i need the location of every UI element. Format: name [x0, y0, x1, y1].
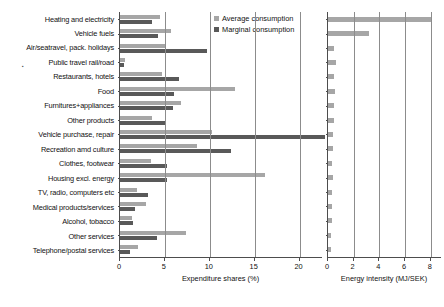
- category-tick: [118, 34, 120, 35]
- bar-row: [120, 142, 322, 156]
- bar-average: [328, 175, 333, 180]
- expenditure-x-axis: Expenditure shares (%) 05101520: [119, 258, 322, 284]
- category-tick: [326, 62, 328, 63]
- bar-average: [328, 247, 331, 252]
- bar-row: [120, 170, 322, 184]
- bar-row: [120, 41, 322, 55]
- category-tick: [118, 48, 120, 49]
- category-tick: [118, 106, 120, 107]
- x-tick: [327, 258, 328, 261]
- category-tick: [118, 120, 120, 121]
- bar-marginal: [120, 236, 157, 240]
- bar-average: [120, 159, 151, 163]
- category-tick: [326, 19, 328, 20]
- bar-row: [328, 113, 441, 127]
- gridline: [354, 12, 355, 257]
- category-tick: [326, 106, 328, 107]
- bar-average: [120, 44, 165, 48]
- bar-average: [328, 60, 336, 65]
- bar-average: [120, 72, 162, 76]
- bar-row: [328, 127, 441, 141]
- x-tick-label: 20: [294, 262, 302, 271]
- bar-average: [120, 15, 160, 19]
- category-tick: [118, 19, 120, 20]
- bar-row: [328, 214, 441, 228]
- bar-row: [120, 84, 322, 98]
- bar-row: [120, 127, 322, 141]
- category-label: Heating and electricity: [0, 12, 117, 26]
- bar-marginal: [120, 63, 124, 67]
- category-tick: [326, 149, 328, 150]
- x-tick-label: 10: [205, 262, 213, 271]
- bar-row: [328, 185, 441, 199]
- bar-marginal: [120, 149, 231, 153]
- category-tick: [118, 91, 120, 92]
- x-tick-label: 6: [402, 262, 406, 271]
- category-tick: [326, 178, 328, 179]
- bar-average: [120, 173, 265, 177]
- category-label: Food: [0, 84, 117, 98]
- bar-average: [120, 245, 138, 249]
- category-label: Restaurants, hotels: [0, 70, 117, 84]
- bar-average: [328, 46, 334, 51]
- bar-row: [328, 26, 441, 40]
- category-tick: [326, 48, 328, 49]
- category-label: Air/seatravel, pack. holidays: [0, 41, 117, 55]
- bar-average: [328, 204, 332, 209]
- gridline: [405, 12, 406, 257]
- expenditure-bar-rows: [120, 12, 322, 257]
- category-label: Furnitures+appliances: [0, 99, 117, 113]
- bar-row: [328, 243, 441, 257]
- bar-row: [328, 199, 441, 213]
- bar-row: [120, 55, 322, 69]
- bar-row: [120, 156, 322, 170]
- bar-row: [120, 26, 322, 40]
- category-label: Other services: [0, 229, 117, 243]
- bar-row: [120, 113, 322, 127]
- category-tick: [118, 149, 120, 150]
- category-tick: [118, 235, 120, 236]
- expenditure-shares-plot: [119, 12, 322, 258]
- bar-average: [120, 216, 132, 220]
- bar-average: [120, 188, 137, 192]
- gridline: [210, 12, 211, 257]
- energy-bar-rows: [328, 12, 441, 257]
- category-label: Vehicle purchase, repair: [0, 128, 117, 142]
- bar-row: [328, 170, 441, 184]
- category-axis-labels: Heating and electricityVehicle fuelsAir/…: [0, 12, 117, 258]
- bar-average: [328, 190, 332, 195]
- expenditure-axis-title: Expenditure shares (%): [119, 274, 322, 283]
- category-label: Public travel rail/road: [0, 55, 117, 69]
- bar-row: [328, 228, 441, 242]
- bar-row: [328, 84, 441, 98]
- bar-marginal: [120, 34, 158, 38]
- bar-row: [328, 70, 441, 84]
- bar-marginal: [120, 77, 179, 81]
- category-tick: [326, 134, 328, 135]
- gridline: [300, 12, 301, 257]
- gridline: [431, 12, 432, 257]
- bar-row: [120, 214, 322, 228]
- category-tick: [118, 178, 120, 179]
- bar-average: [120, 87, 235, 91]
- x-tick: [254, 258, 255, 261]
- gridline: [379, 12, 380, 257]
- bar-average: [120, 202, 146, 206]
- category-tick: [118, 62, 120, 63]
- category-tick: [326, 235, 328, 236]
- category-tick: [118, 163, 120, 164]
- category-tick: [326, 221, 328, 222]
- bar-average: [328, 132, 333, 137]
- bar-marginal: [120, 20, 152, 24]
- bar-marginal: [120, 207, 135, 211]
- bar-marginal: [120, 250, 130, 254]
- category-tick: [326, 192, 328, 193]
- category-tick: [118, 221, 120, 222]
- category-tick: [118, 206, 120, 207]
- category-tick: [326, 77, 328, 78]
- bar-marginal: [120, 49, 207, 53]
- x-tick-label: 2: [351, 262, 355, 271]
- bar-row: [120, 98, 322, 112]
- category-label: Medical products/services: [0, 200, 117, 214]
- bar-row: [328, 55, 441, 69]
